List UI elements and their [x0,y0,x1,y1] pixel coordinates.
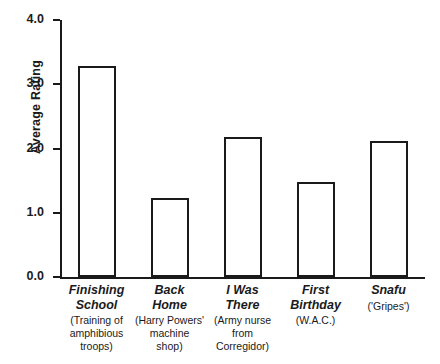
category-subtitle: (W.A.C.) [271,314,361,327]
x-axis-line [60,277,425,279]
y-tick-label: 4.0 [27,12,44,26]
y-tick-label: 0.0 [27,269,44,283]
y-axis-line [60,20,62,278]
y-tick-label: 1.0 [27,205,44,219]
y-tick-label: 3.0 [27,76,44,90]
y-tick: 4.0 [53,19,60,21]
y-axis-title: Average Rating [29,27,43,187]
category-label: Snafu('Gripes') [344,283,434,313]
category-subtitle: ('Gripes') [344,300,434,313]
category-title: Snafu [344,283,434,298]
y-tick: 3.0 [53,83,60,85]
y-tick: 1.0 [53,212,60,214]
bar [151,198,189,277]
bar [370,141,408,277]
bar [224,137,262,277]
bar-chart: Average Rating 0.01.02.03.04.0 Finishing… [0,0,440,364]
y-tick-label: 2.0 [27,141,44,155]
y-tick: 2.0 [53,148,60,150]
bar [78,66,116,277]
plot-area: 0.01.02.03.04.0 [60,20,425,277]
bar [297,182,335,277]
y-tick: 0.0 [53,276,60,278]
